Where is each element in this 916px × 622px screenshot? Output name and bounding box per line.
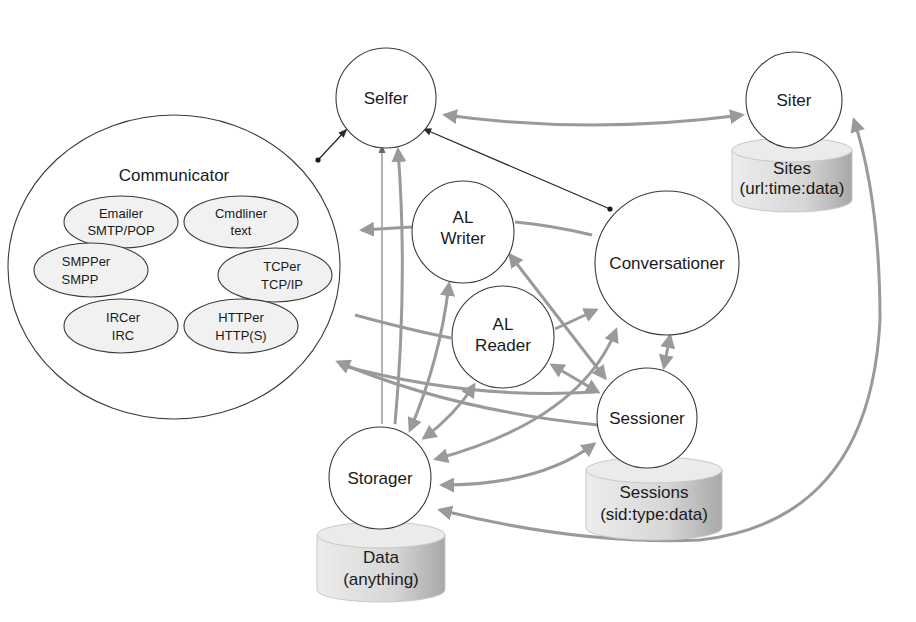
node-al-reader-line2: Reader (475, 336, 531, 355)
db-data-schema: (anything) (343, 570, 419, 589)
edge-communicator-selfer (318, 130, 346, 160)
node-al-reader-line1: AL (493, 315, 514, 334)
db-data: Data (anything) (317, 522, 445, 602)
node-sessioner: Sessioner (597, 368, 697, 468)
edge-sessioner-conversationer (664, 336, 670, 367)
edge-alwriter-communicator (362, 227, 412, 230)
db-sessions-name: Sessions (620, 483, 689, 502)
svg-text:SMPP: SMPP (62, 272, 99, 287)
svg-text:IRC: IRC (112, 328, 134, 343)
module-smpper: SMPPer SMPP (34, 243, 148, 297)
db-sites: Sites (url:time:data) (732, 138, 852, 212)
node-al-writer: AL Writer (412, 181, 514, 283)
node-siter-label: Siter (777, 91, 812, 110)
edge-alwriter-storager (410, 284, 449, 430)
svg-text:HTTP(S): HTTP(S) (215, 328, 266, 343)
node-al-reader: AL Reader (452, 286, 554, 388)
node-conversationer-label: Conversationer (609, 254, 725, 273)
node-al-writer-line2: Writer (440, 229, 485, 248)
db-data-name: Data (363, 548, 399, 567)
module-httper: HTTPer HTTP(S) (184, 299, 298, 353)
node-siter: Siter (746, 52, 842, 148)
node-conversationer: Conversationer (595, 191, 739, 335)
node-storager-label: Storager (347, 469, 413, 488)
db-sessions-schema: (sid:type:data) (600, 505, 708, 524)
svg-text:HTTPer: HTTPer (218, 310, 264, 325)
db-sites-name: Sites (773, 159, 811, 178)
edge-conversationer-alwriter (515, 222, 592, 235)
module-cmdliner: Cmdliner text (184, 196, 298, 248)
svg-text:Emailer: Emailer (99, 206, 144, 221)
svg-text:SMTP/POP: SMTP/POP (87, 223, 154, 238)
architecture-diagram: Sites (url:time:data) Sessions (sid:type… (0, 0, 916, 622)
node-selfer: Selfer (336, 48, 436, 148)
svg-text:TCPer: TCPer (263, 259, 301, 274)
edge-alreader-storager (424, 385, 474, 438)
db-sessions: Sessions (sid:type:data) (586, 457, 722, 540)
node-communicator: Communicator Emailer SMTP/POP Cmdliner t… (8, 115, 340, 419)
node-storager: Storager (329, 427, 431, 529)
node-selfer-label: Selfer (364, 89, 409, 108)
node-al-writer-line1: AL (453, 208, 474, 227)
module-emailer: Emailer SMTP/POP (64, 196, 178, 248)
node-sessioner-label: Sessioner (609, 409, 685, 428)
edge-selfer-siter (445, 115, 742, 125)
svg-text:TCP/IP: TCP/IP (261, 277, 303, 292)
db-sites-schema: (url:time:data) (740, 179, 845, 198)
module-ircer: IRCer IRC (64, 299, 178, 353)
svg-text:SMPPer: SMPPer (62, 254, 111, 269)
svg-text:Cmdliner: Cmdliner (215, 206, 268, 221)
svg-text:IRCer: IRCer (106, 310, 141, 325)
module-tcper: TCPer TCP/IP (218, 248, 332, 302)
node-communicator-label: Communicator (119, 166, 230, 185)
svg-text:text: text (231, 223, 252, 238)
